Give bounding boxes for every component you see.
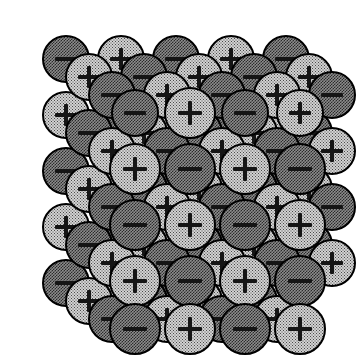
charge-bar-horizontal — [234, 111, 256, 114]
plus-icon: + — [176, 315, 205, 344]
ion-anion: − — [219, 199, 271, 251]
charge-bar-horizontal — [233, 167, 257, 171]
charge-symbol: − — [163, 46, 164, 47]
charge-symbol: + — [154, 82, 155, 83]
charge-symbol: − — [264, 250, 265, 251]
minus-icon: − — [286, 155, 315, 184]
charge-bar-horizontal — [178, 111, 202, 115]
ion-cation: + — [274, 303, 326, 355]
minus-icon: − — [176, 267, 205, 296]
charge-bar-horizontal — [321, 149, 343, 152]
charge-symbol: + — [176, 211, 177, 212]
charge-symbol: + — [286, 315, 287, 316]
ion-anion: − — [274, 143, 326, 195]
charge-symbol: − — [53, 270, 54, 271]
plus-icon: + — [121, 267, 150, 296]
charge-symbol: + — [154, 194, 155, 195]
charge-bar-vertical — [298, 213, 302, 237]
charge-symbol: + — [99, 138, 100, 139]
charge-bar-vertical — [188, 213, 192, 237]
charge-symbol: − — [176, 267, 177, 268]
ion-anion: − — [221, 89, 269, 137]
plus-icon: + — [231, 155, 260, 184]
minus-icon: − — [231, 211, 260, 240]
charge-bar-vertical — [243, 269, 247, 293]
charge-symbol: − — [154, 138, 155, 139]
ion-cation: + — [219, 255, 271, 307]
plus-icon: + — [176, 99, 205, 128]
charge-bar-horizontal — [288, 327, 312, 331]
ion-cation: + — [109, 255, 161, 307]
charge-symbol: − — [53, 46, 54, 47]
charge-bar-horizontal — [178, 279, 202, 283]
charge-symbol: + — [76, 176, 77, 177]
charge-symbol: + — [319, 138, 320, 139]
charge-symbol: + — [264, 306, 265, 307]
charge-symbol: − — [99, 82, 100, 83]
charge-bar-horizontal — [123, 327, 147, 331]
charge-symbol: − — [209, 306, 210, 307]
charge-symbol: − — [264, 138, 265, 139]
charge-symbol: + — [154, 306, 155, 307]
charge-bar-vertical — [330, 252, 333, 274]
charge-bar-vertical — [188, 101, 192, 125]
charge-bar-horizontal — [288, 167, 312, 171]
charge-symbol: + — [53, 214, 54, 215]
charge-symbol: + — [286, 211, 287, 212]
charge-symbol: + — [176, 99, 177, 100]
charge-symbol: − — [231, 211, 232, 212]
ion-anion: − — [219, 303, 271, 355]
charge-symbol: − — [131, 64, 132, 65]
ion-cation: + — [164, 87, 216, 139]
charge-bar-horizontal — [123, 279, 147, 283]
charge-symbol: − — [122, 100, 123, 101]
ion-anion: − — [109, 303, 161, 355]
plus-icon: + — [176, 211, 205, 240]
charge-symbol: − — [76, 232, 77, 233]
ion-cation: + — [276, 89, 324, 137]
plus-icon: + — [286, 315, 315, 344]
ion-anion: − — [164, 255, 216, 307]
charge-symbol: − — [319, 194, 320, 195]
charge-symbol: − — [121, 211, 122, 212]
charge-symbol: − — [209, 82, 210, 83]
plus-icon: + — [121, 155, 150, 184]
minus-icon: − — [176, 155, 205, 184]
charge-symbol: − — [154, 250, 155, 251]
charge-symbol: − — [209, 194, 210, 195]
charge-bar-vertical — [298, 102, 301, 124]
ion-anion: − — [274, 255, 326, 307]
charge-bar-horizontal — [288, 223, 312, 227]
charge-bar-horizontal — [321, 93, 343, 96]
charge-bar-horizontal — [178, 327, 202, 331]
charge-symbol: + — [186, 64, 187, 65]
charge-bar-horizontal — [321, 261, 343, 264]
charge-symbol: + — [231, 155, 232, 156]
charge-bar-horizontal — [178, 167, 202, 171]
charge-bar-vertical — [330, 140, 333, 162]
charge-symbol: − — [176, 155, 177, 156]
charge-bar-horizontal — [233, 279, 257, 283]
ion-cation: + — [109, 143, 161, 195]
charge-symbol: + — [218, 46, 219, 47]
charge-symbol: + — [76, 288, 77, 289]
charge-symbol: + — [209, 138, 210, 139]
charge-symbol: − — [53, 158, 54, 159]
ion-cation: + — [274, 199, 326, 251]
charge-bar-horizontal — [233, 327, 257, 331]
charge-symbol: + — [264, 194, 265, 195]
plus-icon: + — [231, 267, 260, 296]
ion-cation: + — [164, 199, 216, 251]
charge-symbol: + — [231, 267, 232, 268]
charge-symbol: + — [53, 102, 54, 103]
charge-symbol: + — [76, 64, 77, 65]
charge-symbol: + — [99, 250, 100, 251]
plus-icon: + — [287, 100, 313, 126]
minus-icon: − — [121, 211, 150, 240]
charge-bar-vertical — [133, 157, 137, 181]
ion-cation: + — [219, 143, 271, 195]
charge-symbol: − — [76, 120, 77, 121]
charge-symbol: − — [121, 315, 122, 316]
charge-symbol: + — [121, 267, 122, 268]
